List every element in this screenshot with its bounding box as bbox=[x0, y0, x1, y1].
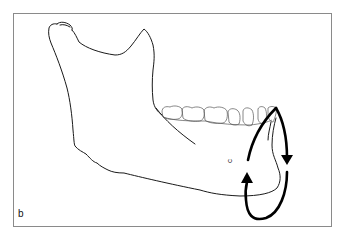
rotation-arrow-down bbox=[276, 108, 287, 158]
point-label-c: c bbox=[226, 159, 234, 163]
mandible-diagram bbox=[0, 0, 341, 238]
mandible-outline bbox=[49, 22, 281, 196]
arrowhead-down-icon bbox=[281, 155, 293, 165]
tooth-premolar-2 bbox=[228, 109, 240, 125]
arrowhead-up-icon bbox=[241, 172, 253, 183]
panel-label: b bbox=[18, 209, 24, 219]
tooth-molar-2 bbox=[182, 107, 204, 122]
tooth-premolar-1 bbox=[243, 108, 254, 126]
teeth-row bbox=[162, 106, 276, 126]
tooth-molar-1 bbox=[204, 107, 227, 123]
